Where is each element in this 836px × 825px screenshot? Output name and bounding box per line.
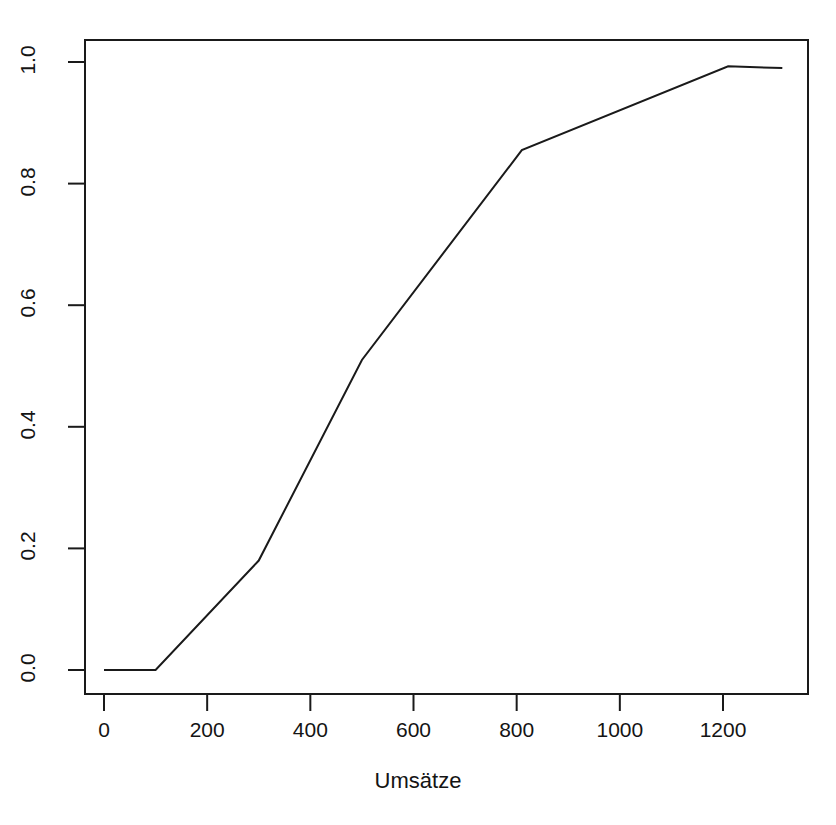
plot-area	[0, 0, 836, 825]
y-tick-label: 0.0	[16, 618, 40, 718]
data-series-layer	[104, 66, 782, 670]
y-axis-ticks	[68, 62, 85, 670]
y-tick-label: 0.2	[16, 496, 40, 596]
y-tick-label: 0.6	[16, 253, 40, 353]
y-tick-label: 0.8	[16, 132, 40, 232]
x-tick-label: 800	[467, 718, 567, 742]
data-series-line	[104, 66, 782, 670]
plot-frame	[85, 40, 808, 694]
x-axis-ticks	[104, 694, 723, 711]
y-tick-label: 0.4	[16, 375, 40, 475]
x-axis-title: Umsätze	[0, 768, 836, 794]
x-tick-label: 400	[260, 718, 360, 742]
y-tick-label: 1.0	[16, 10, 40, 110]
x-tick-label: 200	[157, 718, 257, 742]
x-tick-label: 1200	[673, 718, 773, 742]
x-tick-label: 0	[54, 718, 154, 742]
x-tick-label: 600	[364, 718, 464, 742]
chart-figure: 0.00.20.40.60.81.0 020040060080010001200…	[0, 0, 836, 825]
x-tick-label: 1000	[570, 718, 670, 742]
